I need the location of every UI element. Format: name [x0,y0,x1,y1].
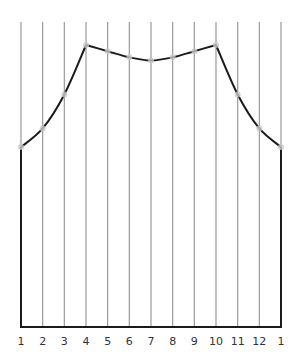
data-point [105,48,111,54]
x-tick-label: 5 [104,335,111,348]
x-tick-label: 10 [209,335,223,348]
x-tick-label: 12 [252,335,266,348]
data-point [40,125,46,131]
x-tick-label: 11 [231,335,245,348]
x-tick-label: 3 [61,335,68,348]
curve-fall [216,45,281,147]
x-tick-label: 4 [83,335,90,348]
data-point [235,91,241,97]
data-point [256,125,262,131]
data-point [61,91,67,97]
x-tick-label: 6 [126,335,133,348]
x-tick-label: 2 [39,335,46,348]
data-point [126,54,132,60]
x-tick-label: 1 [278,335,285,348]
data-point [148,57,154,63]
data-point [83,42,89,48]
x-tick-label: 7 [148,335,155,348]
data-point [170,54,176,60]
data-point [278,144,284,150]
data-point [18,144,24,150]
data-point [191,48,197,54]
data-point [213,42,219,48]
chart: 1234567891011121 [0,0,298,363]
x-tick-label: 9 [191,335,198,348]
x-tick-label: 8 [169,335,176,348]
x-tick-label: 1 [18,335,25,348]
curve-rise [21,45,86,147]
